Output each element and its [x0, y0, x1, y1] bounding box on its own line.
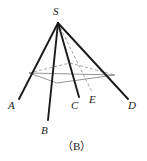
vertex-label-C: C: [71, 100, 78, 111]
vertex-label-E: E: [89, 94, 96, 105]
vertex-label-B: B: [41, 125, 48, 136]
vertex-label-D: D: [128, 100, 136, 111]
figure-caption: （B）: [62, 141, 91, 152]
geometry-figure: S A B C E D （B）: [0, 0, 147, 161]
geometry-diagram-canvas: [0, 0, 147, 161]
vertex-label-S: S: [53, 6, 59, 17]
dashed-edge-group: [29, 23, 115, 92]
vertex-label-A: A: [8, 100, 15, 111]
edge-base-top-to-base-right: [70, 63, 115, 75]
